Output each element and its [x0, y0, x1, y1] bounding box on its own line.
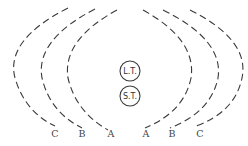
- arc-left-b: [41, 9, 95, 128]
- arc-label-right-c: C: [196, 128, 203, 139]
- arc-label-right-b: B: [169, 128, 176, 139]
- arc-label-left-b: B: [79, 128, 86, 139]
- arc-right-a: [143, 10, 192, 128]
- node-st: S.T.: [120, 86, 140, 106]
- st-label: S.T.: [123, 92, 137, 101]
- arc-left-a: [67, 10, 117, 130]
- concentric-arcs-diagram: C B A A B C L.T. S.T.: [0, 0, 248, 146]
- arc-label-right-a: A: [142, 128, 150, 139]
- arc-labels: C B A A B C: [51, 128, 203, 139]
- lt-label: L.T.: [123, 67, 136, 76]
- arc-right-b: [163, 10, 219, 128]
- arc-right-c: [190, 10, 243, 126]
- arc-label-left-a: A: [107, 128, 115, 139]
- arc-label-left-c: C: [51, 128, 58, 139]
- arc-left-c: [14, 8, 68, 126]
- node-lt: L.T.: [120, 61, 140, 81]
